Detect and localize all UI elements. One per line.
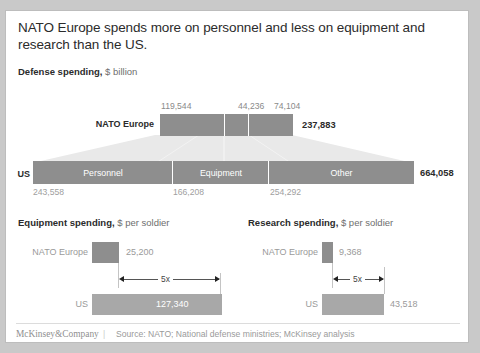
funnel-connector bbox=[6, 135, 469, 163]
research-arrow-right-icon bbox=[379, 276, 384, 282]
research-nato-value: 9,368 bbox=[339, 247, 362, 257]
nato-europe-row-label: NATO Europe bbox=[66, 119, 154, 129]
defense-title-unit: $ billion bbox=[102, 66, 137, 77]
mckinsey-logo: McKinsey&Company bbox=[16, 329, 99, 339]
research-arrow-left-icon bbox=[333, 276, 338, 282]
us-personnel-value: 243,558 bbox=[33, 187, 64, 197]
equipment-nato-bar bbox=[92, 242, 119, 263]
footer-separator: | bbox=[103, 329, 105, 339]
us-other-value: 254,292 bbox=[270, 187, 301, 197]
us-equipment-value: 166,208 bbox=[173, 187, 204, 197]
equipment-nato-label: NATO Europe bbox=[6, 247, 88, 257]
equipment-arrow-right-icon bbox=[215, 276, 220, 282]
research-title-main: Research spending, bbox=[248, 217, 338, 228]
research-title-unit: $ per soldier bbox=[338, 217, 393, 228]
research-section-title: Research spending, $ per soldier bbox=[248, 217, 393, 228]
equipment-nato-value: 25,200 bbox=[126, 247, 154, 257]
research-us-label: US bbox=[238, 299, 318, 309]
nato-personnel-value: 119,544 bbox=[161, 101, 191, 111]
research-nato-bar bbox=[322, 242, 333, 263]
equipment-guide-right bbox=[220, 273, 221, 294]
footer-source: Source: NATO; National defense ministrie… bbox=[116, 329, 355, 339]
infographic-frame: NATO Europe spends more on personnel and… bbox=[5, 10, 469, 343]
us-row-label: US bbox=[8, 169, 30, 179]
nato-equipment-value: 44,236 bbox=[238, 101, 264, 111]
equipment-us-label: US bbox=[6, 299, 88, 309]
us-personnel-segment-label: Personnel bbox=[33, 168, 173, 178]
research-guide-right bbox=[384, 267, 385, 294]
us-other-segment-label: Other bbox=[269, 168, 414, 178]
research-nato-label: NATO Europe bbox=[238, 247, 318, 257]
nato-equipment-bar bbox=[225, 114, 249, 136]
equipment-arrow-left-icon bbox=[119, 276, 124, 282]
nato-other-value: 74,104 bbox=[274, 101, 300, 111]
defense-spending-panel: Defense spending, $ billion NATO Europe … bbox=[6, 11, 469, 161]
footer-divider bbox=[16, 323, 460, 324]
research-us-bar bbox=[322, 294, 384, 315]
nato-other-bar bbox=[249, 114, 293, 136]
nato-personnel-bar bbox=[160, 114, 225, 136]
defense-section-title: Defense spending, $ billion bbox=[18, 66, 137, 77]
equipment-multiplier-label: 5x bbox=[158, 274, 173, 284]
defense-title-main: Defense spending, bbox=[18, 66, 102, 77]
equipment-section-title: Equipment spending, $ per soldier bbox=[18, 217, 170, 228]
equipment-title-unit: $ per soldier bbox=[115, 217, 170, 228]
equipment-title-main: Equipment spending, bbox=[18, 217, 115, 228]
nato-total-value: 237,883 bbox=[302, 120, 336, 130]
research-multiplier-label: 5x bbox=[350, 274, 365, 284]
equipment-us-value: 127,340 bbox=[156, 299, 189, 309]
us-equipment-segment-label: Equipment bbox=[173, 168, 269, 178]
us-total-value: 664,058 bbox=[420, 168, 454, 178]
research-us-value: 43,518 bbox=[390, 299, 418, 309]
